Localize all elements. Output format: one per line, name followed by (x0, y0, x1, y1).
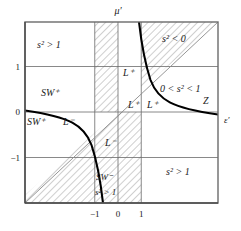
annotation-0lts2lt1: 0 < s² < 1 (160, 83, 200, 94)
annotation-s2gt1-lower-right: s² > 1 (166, 166, 190, 177)
annotation-swplus-lower-left: SW⁺ (27, 116, 46, 127)
hatch-band-upper-left (95, 22, 118, 112)
annotation-s2gt1-bottom: s² > 1 (95, 187, 116, 197)
annotation-lminus-center: L⁻ (104, 137, 117, 148)
ytick-neg1: −1 (10, 153, 20, 163)
y-axis-label: μ′ (113, 5, 122, 16)
annotation-z: Z (203, 95, 209, 106)
ytick-0: 0 (16, 107, 21, 117)
x-axis-label: ε′ (224, 115, 231, 125)
phase-diagram-figure: μ′ ε′ 1 0 −1 −1 0 1 s² > 1 SW⁺ SW⁺ L⁻ L⁻… (0, 0, 241, 231)
annotation-s2gt1-upper-left: s² > 1 (37, 39, 61, 50)
annotation-lplus-upper: L⁺ (122, 67, 135, 78)
xtick-1: 1 (139, 209, 144, 219)
annotation-s2lt0: s² < 0 (162, 33, 186, 44)
annotation-swminus-bottom: SW⁻ (96, 172, 114, 182)
phase-diagram-svg: μ′ ε′ 1 0 −1 −1 0 1 s² > 1 SW⁺ SW⁺ L⁻ L⁻… (0, 0, 241, 231)
xtick-neg1: −1 (90, 209, 100, 219)
annotation-lminus-left: L⁻ (62, 116, 75, 127)
ytick-1: 1 (16, 62, 21, 72)
xtick-0: 0 (116, 209, 121, 219)
annotation-lplus-right: L⁺ (146, 99, 159, 110)
annotation-lplus-mid: L⁺ (127, 99, 140, 110)
annotation-swplus-mid-left: SW⁺ (41, 87, 60, 98)
